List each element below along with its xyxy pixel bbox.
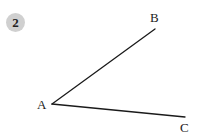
figure-canvas: 2 A B C: [0, 0, 199, 139]
point-label-c: C: [180, 121, 189, 134]
ray-ab: [52, 29, 155, 104]
point-label-b: B: [150, 11, 159, 24]
vertex-label-a: A: [37, 98, 46, 111]
angle-diagram: [0, 0, 199, 139]
ray-ac: [52, 104, 185, 117]
